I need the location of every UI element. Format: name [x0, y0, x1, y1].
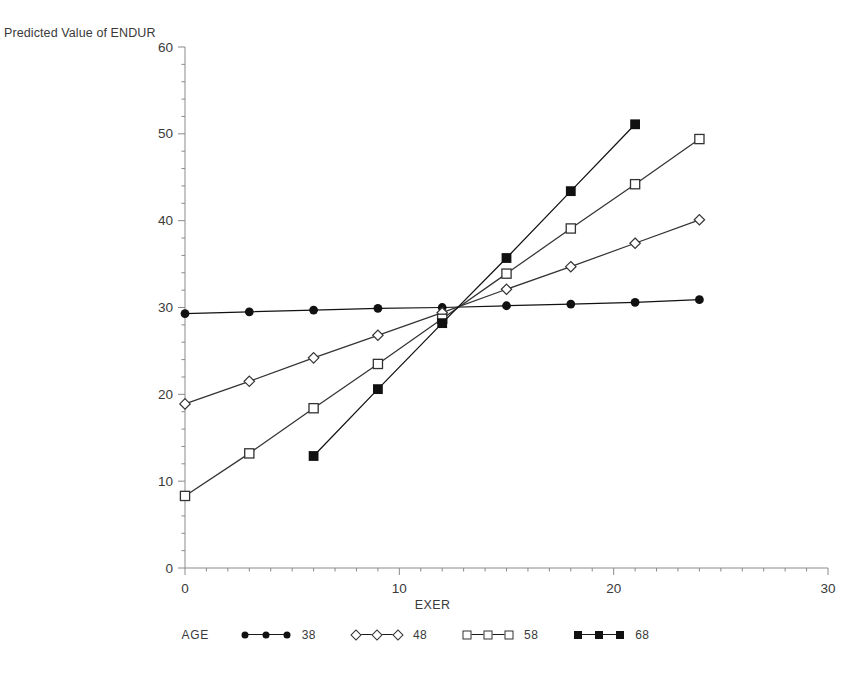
legend-label-58: 58 — [524, 628, 538, 642]
y-tick-label: 0 — [165, 561, 173, 576]
data-point-filled-square — [566, 186, 576, 196]
data-point-filled-circle — [245, 307, 254, 316]
data-point-open-diamond — [694, 215, 704, 225]
y-tick-label: 50 — [158, 126, 173, 141]
data-point-open-square — [309, 404, 318, 413]
x-tick-group: 0102030 — [181, 568, 835, 596]
legend-item-68[interactable]: 68 — [572, 628, 649, 642]
data-point-filled-circle — [631, 298, 640, 307]
legend-item-58[interactable]: 58 — [461, 628, 538, 642]
legend-title: AGE — [182, 628, 209, 642]
filled-circle-icon — [241, 632, 248, 639]
data-point-filled-circle — [502, 301, 511, 310]
y-tick-label: 40 — [158, 213, 173, 228]
x-tick-label: 0 — [181, 581, 189, 596]
data-point-open-square — [502, 269, 511, 278]
legend-key-38 — [239, 628, 293, 642]
x-tick-label: 20 — [606, 581, 621, 596]
legend-key-58 — [461, 628, 515, 642]
data-point-open-square — [373, 359, 382, 368]
x-axis-title: EXER — [0, 598, 865, 612]
data-point-open-diamond — [566, 261, 576, 271]
filled-square-icon — [595, 631, 603, 639]
data-point-open-diamond — [630, 238, 640, 248]
open-square-icon — [505, 631, 514, 640]
y-tick-label: 30 — [158, 300, 173, 315]
legend-item-38[interactable]: 38 — [239, 628, 316, 642]
data-point-open-square — [631, 180, 640, 189]
data-point-filled-circle — [181, 309, 190, 318]
data-point-filled-square — [373, 384, 383, 394]
series-58 — [180, 134, 704, 500]
open-diamond-icon — [392, 629, 403, 640]
data-point-open-diamond — [373, 330, 383, 340]
open-square-icon — [484, 631, 493, 640]
y-tick-label: 60 — [158, 40, 173, 55]
data-point-open-diamond — [308, 353, 318, 363]
x-tick-label: 10 — [392, 581, 407, 596]
data-point-open-square — [566, 224, 575, 233]
data-point-open-square — [180, 491, 189, 500]
y-axis-title: Predicted Value of ENDUR — [4, 26, 156, 40]
data-point-filled-circle — [374, 304, 383, 313]
data-point-open-square — [245, 449, 254, 458]
data-point-filled-circle — [566, 300, 575, 309]
data-point-filled-square — [630, 119, 640, 129]
open-diamond-icon — [371, 629, 382, 640]
legend-label-38: 38 — [302, 628, 316, 642]
x-tick-label: 30 — [820, 581, 835, 596]
faint-header-text — [60, 0, 780, 14]
data-point-open-square — [695, 134, 704, 143]
data-point-open-diamond — [501, 284, 511, 294]
legend-key-48 — [350, 628, 404, 642]
data-point-filled-square — [309, 451, 319, 461]
y-tick-label: 10 — [158, 474, 173, 489]
legend-key-68 — [572, 628, 626, 642]
data-point-filled-circle — [309, 306, 318, 315]
series-line — [314, 124, 635, 456]
filled-square-icon — [616, 631, 624, 639]
open-diamond-icon — [350, 629, 361, 640]
data-point-filled-square — [502, 253, 512, 263]
data-point-open-diamond — [244, 376, 254, 386]
data-point-open-diamond — [180, 399, 190, 409]
legend-label-68: 68 — [635, 628, 649, 642]
filled-circle-icon — [283, 632, 290, 639]
chart-figure: Predicted Value of ENDUR 010203040506001… — [0, 0, 865, 682]
legend-label-48: 48 — [413, 628, 427, 642]
chart-legend: AGE 38 48 — [0, 628, 865, 642]
legend-item-48[interactable]: 48 — [350, 628, 427, 642]
series-68 — [309, 119, 640, 461]
data-point-filled-square — [437, 318, 447, 328]
open-square-icon — [463, 631, 472, 640]
plot-area: 01020304050600102030 — [0, 0, 865, 600]
y-tick-label: 20 — [158, 387, 173, 402]
data-point-filled-circle — [695, 295, 704, 304]
filled-square-icon — [574, 631, 582, 639]
filled-circle-icon — [262, 632, 269, 639]
